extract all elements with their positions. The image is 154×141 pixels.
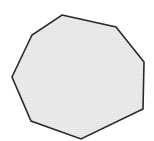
diagram-canvas [0,0,154,141]
octagon-shape [12,15,144,139]
octagon-diagram [0,0,154,141]
